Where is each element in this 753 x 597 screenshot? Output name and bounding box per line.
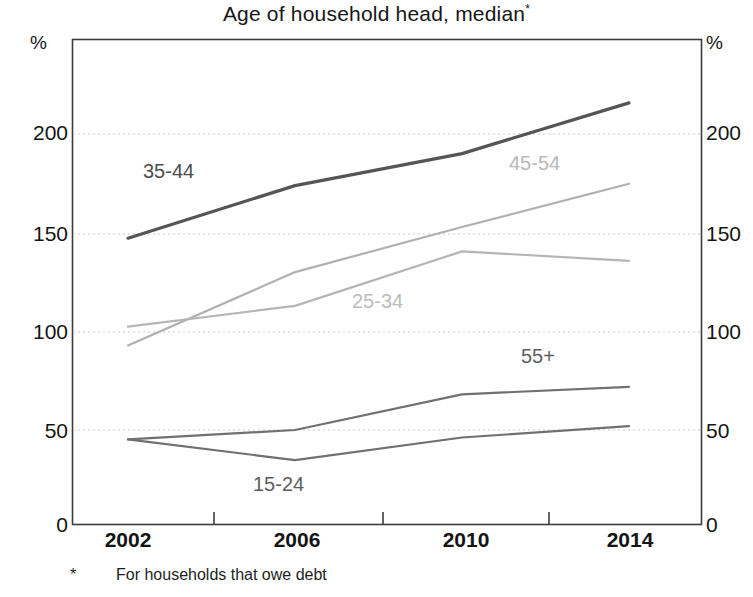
series-label-55plus: 55+	[521, 345, 555, 368]
series-line-45-54	[128, 184, 629, 346]
footnote-marker: *	[70, 566, 116, 584]
series-line-15-24	[128, 426, 629, 460]
series-label-35-44: 35-44	[143, 160, 194, 183]
series-line-25-34	[128, 251, 629, 326]
chart-figure: Age of household head, median* % % 0 50 …	[0, 0, 753, 597]
series-label-45-54: 45-54	[509, 152, 560, 175]
plot-frame	[73, 40, 702, 525]
footnote: *For households that owe debt	[70, 566, 327, 584]
footnote-text: For households that owe debt	[116, 566, 327, 583]
series-label-25-34: 25-34	[352, 290, 403, 313]
series-label-15-24: 15-24	[253, 473, 304, 496]
